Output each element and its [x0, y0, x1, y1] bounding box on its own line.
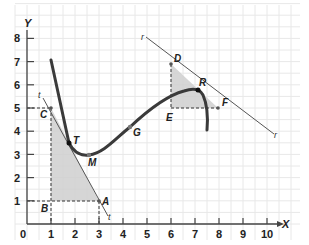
graph-figure: 0 1 2 3 4 5 6 7 8 9 10 1 2 3 4 5 6 7 8 X…: [0, 0, 309, 245]
label-m: M: [88, 157, 97, 168]
y-tick-4: 4: [14, 125, 21, 137]
x-tick-7: 7: [192, 228, 198, 240]
y-tick-6: 6: [14, 79, 20, 91]
x-tick-5: 5: [144, 228, 150, 240]
label-t: T: [73, 135, 80, 146]
label-g: G: [133, 127, 141, 138]
x-tick-labels: 0 1 2 3 4 5 6 7 8 9 10: [20, 228, 273, 240]
x-tick-3: 3: [96, 228, 102, 240]
label-d: D: [174, 53, 181, 64]
x-axis-title: X: [281, 218, 290, 230]
label-r: R: [199, 77, 207, 88]
x-tick-6: 6: [168, 228, 174, 240]
label-f: F: [222, 97, 229, 108]
label-line-r-top: r: [141, 32, 145, 42]
y-tick-3: 3: [14, 149, 20, 161]
x-tick-9: 9: [240, 228, 246, 240]
x-tick-8: 8: [216, 228, 222, 240]
label-c: C: [40, 109, 48, 120]
label-b: B: [41, 203, 48, 214]
x-tick-4: 4: [120, 228, 127, 240]
label-a: A: [101, 196, 109, 207]
label-line-t-top: t: [38, 90, 41, 100]
y-tick-7: 7: [14, 56, 20, 68]
origin-label: 0: [20, 228, 26, 240]
x-tick-2: 2: [72, 228, 78, 240]
y-tick-8: 8: [14, 32, 20, 44]
x-tick-10: 10: [261, 228, 273, 240]
y-tick-1: 1: [14, 195, 20, 207]
y-tick-2: 2: [14, 172, 20, 184]
label-e: E: [166, 112, 173, 123]
y-tick-5: 5: [14, 102, 20, 114]
x-tick-1: 1: [48, 228, 54, 240]
